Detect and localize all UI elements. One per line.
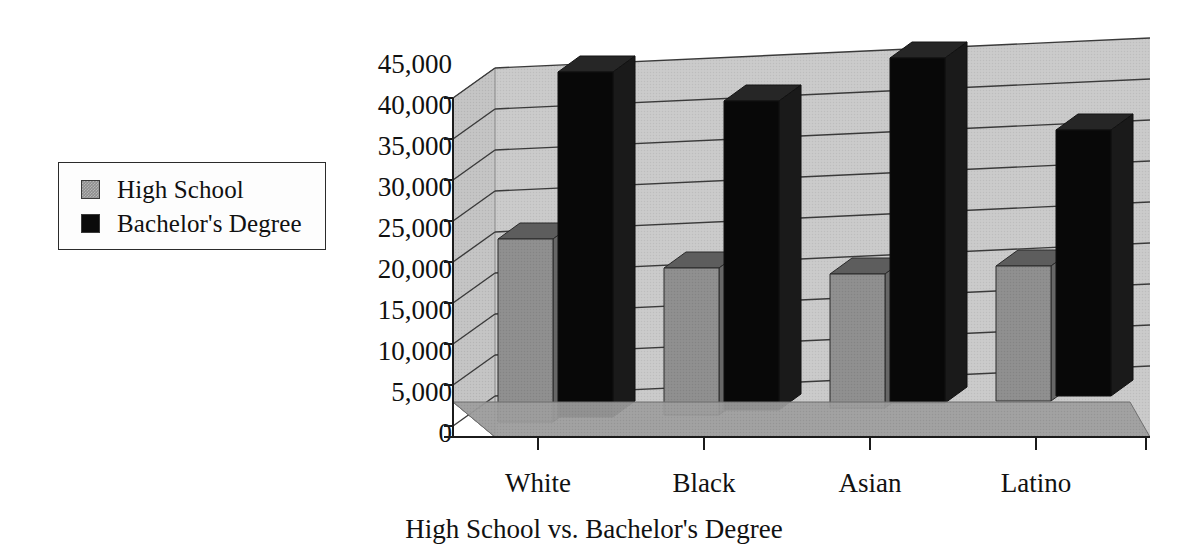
- y-axis-tick-label: 30,000: [342, 174, 452, 201]
- y-axis-tick-label: 35,000: [342, 133, 452, 160]
- chart-floor-front: [453, 402, 1150, 437]
- legend-label-bachelors-degree: Bachelor's Degree: [117, 211, 302, 236]
- bar-bachelors-black-front: [724, 101, 779, 410]
- y-axis-line: [444, 98, 453, 437]
- legend-label-high-school: High School: [117, 177, 244, 202]
- chart-page: High School Bachelor's Degree 45,00040,0…: [0, 0, 1188, 553]
- bar-bachelors-latino-side: [1111, 114, 1133, 396]
- x-axis-tick-label: Latino: [956, 468, 1116, 498]
- y-axis-tick-label: 5,000: [342, 379, 452, 406]
- bar-high-school-black-front: [664, 268, 719, 415]
- y-axis-tick-label: 0: [342, 420, 452, 447]
- bar-bachelors-latino-front: [1056, 130, 1111, 396]
- y-axis-tick-label: 45,000: [342, 51, 452, 78]
- legend-swatch-high-school-icon: [81, 180, 100, 199]
- x-axis-tick-label: Black: [624, 468, 784, 498]
- x-axis-labels: WhiteBlackAsianLatino: [440, 468, 1150, 508]
- legend-swatch-bachelors-degree-icon: [81, 214, 100, 233]
- chart-title: High School vs. Bachelor's Degree: [0, 514, 1188, 544]
- bar-bachelors-asian-front: [890, 58, 945, 403]
- bar-high-school-white-front: [498, 239, 553, 422]
- chart-svg: [440, 30, 1150, 450]
- bar-high-school-latino-front: [996, 266, 1051, 401]
- y-axis-labels: 45,00040,00035,00030,00025,00020,00015,0…: [352, 0, 452, 553]
- y-axis-tick-label: 20,000: [342, 256, 452, 283]
- y-axis-tick-label: 10,000: [342, 338, 452, 365]
- legend-item-high-school: High School: [81, 172, 325, 206]
- bar-bachelors-white-front: [558, 72, 613, 417]
- legend-item-bachelors-degree: Bachelor's Degree: [81, 206, 325, 240]
- y-axis-tick-label: 40,000: [342, 92, 452, 119]
- chart-legend: High School Bachelor's Degree: [58, 162, 326, 250]
- bar-bachelors-white-side: [613, 56, 635, 417]
- bar-bachelors-asian-side: [945, 42, 967, 403]
- chart-plot-area: [440, 30, 1150, 450]
- bar-bachelors-black-side: [779, 85, 801, 410]
- y-axis-tick-label: 15,000: [342, 297, 452, 324]
- x-axis-tick-label: Asian: [790, 468, 950, 498]
- x-axis-line: [453, 437, 1150, 450]
- x-axis-tick-label: White: [458, 468, 618, 498]
- y-axis-tick-label: 25,000: [342, 215, 452, 242]
- bar-high-school-asian-front: [830, 274, 885, 408]
